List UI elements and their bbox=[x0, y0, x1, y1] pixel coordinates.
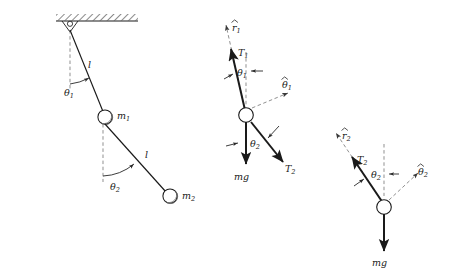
label-rod2-length: l bbox=[145, 149, 148, 160]
label-mass1: m1 bbox=[117, 110, 130, 123]
angle-arc-theta2 bbox=[103, 164, 134, 176]
label-thetahat2: θ2 bbox=[418, 166, 428, 179]
theta1-angle-pointer-left bbox=[224, 74, 233, 79]
label-rod1-length: l bbox=[88, 59, 91, 70]
bob-fbd1 bbox=[239, 108, 254, 123]
angle-arc-theta1 bbox=[70, 78, 89, 84]
bob-mass-2 bbox=[163, 189, 178, 204]
thetahat1-vector bbox=[252, 93, 288, 108]
label-theta1: θ1 bbox=[64, 87, 74, 100]
label-mass2: m2 bbox=[182, 190, 195, 203]
tension2-vector-fbd1 bbox=[251, 122, 283, 162]
label-tension2-fbd1: T2 bbox=[285, 163, 296, 176]
label-tension1: T1 bbox=[238, 47, 249, 60]
label-theta2-angle-fbd2: θ2 bbox=[371, 169, 381, 182]
theta2-angle-pointer-left-fbd2 bbox=[354, 179, 364, 186]
thetahat2-vector bbox=[389, 173, 418, 200]
physics-figure: θ1 l m1 θ2 l m2 r1 bbox=[0, 0, 452, 272]
label-weight-fbd1: mg bbox=[234, 171, 249, 182]
label-rhat2: r2 bbox=[342, 130, 351, 143]
label-rhat1: r1 bbox=[232, 22, 241, 35]
fbd-mass-2: r2 T2 θ2 θ2 mg bbox=[336, 128, 428, 268]
label-thetahat1: θ1 bbox=[282, 79, 292, 92]
ceiling-hatching bbox=[56, 14, 138, 21]
pendulum-assembly: θ1 l m1 θ2 l m2 bbox=[56, 14, 195, 204]
label-theta2-angle-fbd1: θ2 bbox=[250, 138, 260, 151]
label-theta2: θ2 bbox=[110, 181, 120, 194]
bob-fbd2 bbox=[377, 200, 392, 215]
bob-mass-1 bbox=[98, 110, 113, 125]
label-weight-fbd2: mg bbox=[372, 257, 387, 268]
rod-1 bbox=[70, 30, 104, 114]
fbd-mass-1: r1 T1 θ1 θ1 mg T2 θ2 bbox=[224, 20, 296, 182]
theta2-angle-pointer-left-fbd1 bbox=[226, 143, 238, 146]
theta2-angle-pointer-right-fbd1 bbox=[268, 126, 279, 138]
